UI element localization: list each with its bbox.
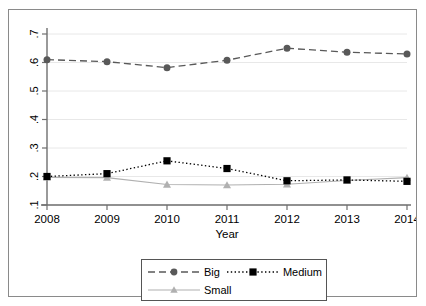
series-big — [44, 45, 411, 71]
data-point-marker — [43, 173, 50, 180]
x-tick-label: 2013 — [334, 213, 360, 225]
data-point-marker — [164, 64, 171, 71]
x-tick-label: 2014 — [394, 213, 416, 225]
x-tick-label: 2011 — [215, 213, 240, 225]
legend-key-medium — [225, 265, 281, 279]
legend-label-small: Small — [202, 284, 232, 296]
legend-row-1: Big Medium — [146, 263, 322, 281]
x-tick-label: 2010 — [154, 213, 180, 225]
data-point-marker — [403, 178, 410, 185]
y-tick-label: .2 — [28, 172, 40, 181]
data-point-marker — [284, 45, 291, 52]
legend-key-small — [146, 283, 202, 297]
data-point-marker — [104, 58, 111, 65]
legend-key-big — [146, 265, 202, 279]
data-point-marker — [163, 157, 170, 164]
y-tick-label: .3 — [28, 143, 40, 152]
legend-item-big[interactable]: Big — [146, 265, 225, 279]
data-point-marker — [223, 165, 230, 172]
data-point-marker — [44, 56, 51, 63]
x-tick-label: 2012 — [274, 213, 300, 225]
data-point-marker — [283, 177, 290, 184]
y-tick-label: .4 — [28, 115, 40, 124]
graph-outer-frame: .1.2.3.4.5.6.7 2008200920102011201220132… — [8, 9, 417, 297]
y-tick-label: .5 — [28, 86, 40, 95]
legend-item-medium[interactable]: Medium — [225, 265, 322, 279]
x-axis-title-text: Year — [215, 228, 238, 240]
legend-label-medium: Medium — [281, 266, 322, 278]
x-axis-tick-labels: 2008200920102011201220132014 — [34, 213, 416, 225]
data-series — [43, 45, 411, 189]
data-point-marker — [344, 49, 351, 56]
chart-legend: Big Medium — [141, 259, 327, 301]
x-tick-label: 2008 — [34, 213, 60, 225]
legend-item-small[interactable]: Small — [146, 283, 242, 297]
chart-figure: .1.2.3.4.5.6.7 2008200920102011201220132… — [0, 0, 426, 306]
line-chart-plot: .1.2.3.4.5.6.7 2008200920102011201220132… — [9, 10, 416, 296]
x-tick-label: 2009 — [94, 213, 120, 225]
y-tick-label: .6 — [28, 58, 40, 67]
series-small — [43, 173, 411, 188]
data-point-marker — [103, 170, 110, 177]
x-axis-ticks — [47, 205, 407, 210]
data-point-marker — [343, 176, 350, 183]
axis-lines — [41, 28, 411, 205]
series-medium — [43, 157, 410, 185]
x-axis-title: Year — [215, 228, 238, 240]
legend-row-2: Small — [146, 281, 322, 299]
data-point-marker — [404, 50, 411, 57]
data-point-marker — [224, 57, 231, 64]
y-tick-label: .1 — [28, 200, 40, 209]
y-tick-label: .7 — [28, 29, 40, 38]
y-axis-tick-labels: .1.2.3.4.5.6.7 — [28, 29, 40, 209]
legend-label-big: Big — [202, 266, 220, 278]
